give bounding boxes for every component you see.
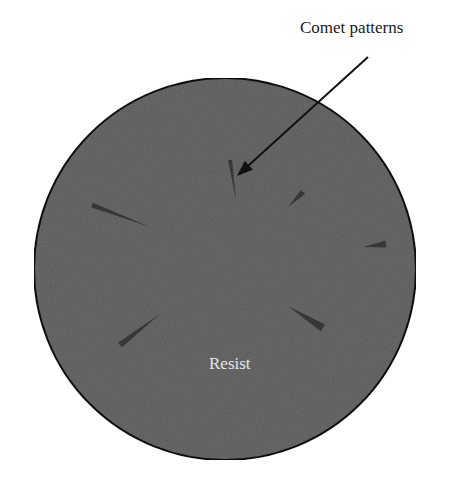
comet-diagram bbox=[0, 0, 462, 493]
callout-label: Comet patterns bbox=[300, 18, 403, 38]
resist-label: Resist bbox=[209, 354, 251, 374]
resist-wafer bbox=[34, 78, 416, 460]
wafer-disk bbox=[34, 78, 416, 460]
